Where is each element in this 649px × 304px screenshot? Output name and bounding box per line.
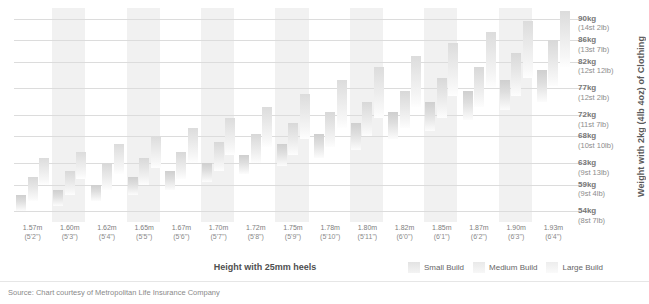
- y-tick-label: 68kg(10st 10lb): [578, 131, 613, 150]
- x-axis-ticks: 1.57m(5'2")1.60m(5'3")1.62m(5'4")1.65m(5…: [14, 224, 572, 248]
- x-tick-label: 1.70m(5'7"): [200, 224, 237, 241]
- y-tick-kg: 72kg: [578, 110, 609, 120]
- x-tick-metric: 1.82m: [386, 224, 423, 233]
- x-tick-metric: 1.87m: [460, 224, 497, 233]
- source-note: Source: Chart courtesy of Metropolitan L…: [8, 288, 220, 297]
- x-tick-imperial: (5'10"): [312, 233, 349, 242]
- range-bar: [28, 177, 38, 201]
- x-tick-imperial: (5'6"): [163, 233, 200, 242]
- y-tick-imperial: (14st 2lb): [578, 23, 609, 33]
- range-bar: [374, 67, 384, 118]
- y-tick-label: 54kg(8st 7lb): [578, 206, 605, 225]
- x-tick-label: 1.90m(6'3"): [498, 224, 535, 241]
- x-tick-metric: 1.90m: [498, 224, 535, 233]
- range-bar: [102, 163, 112, 190]
- range-bar: [225, 118, 235, 155]
- y-tick-label: 90kg(14st 2lb): [578, 14, 609, 33]
- x-tick-label: 1.75m(5'9"): [274, 224, 311, 241]
- range-bar: [165, 171, 175, 190]
- x-tick-label: 1.62m(5'4"): [88, 224, 125, 241]
- gridline: [14, 19, 586, 20]
- y-tick-label: 59kg(9st 4lb): [578, 180, 605, 199]
- x-tick-label: 1.85m(6'1"): [423, 224, 460, 241]
- range-bar: [139, 158, 149, 185]
- legend-item[interactable]: Large Build: [546, 262, 602, 273]
- weight-for-height-chart: 90kg(14st 2lb)86kg(13st 7lb)82kg(12st 12…: [0, 0, 649, 304]
- x-tick-metric: 1.80m: [349, 224, 386, 233]
- x-tick-label: 1.57m(5'2"): [14, 224, 51, 241]
- plot-area: [14, 8, 572, 222]
- range-bar: [425, 102, 435, 131]
- y-tick-label: 63kg(9st 13lb): [578, 158, 609, 177]
- x-tick-imperial: (5'5"): [126, 233, 163, 242]
- range-bar: [486, 32, 496, 88]
- x-tick-imperial: (5'9"): [274, 233, 311, 242]
- range-bar: [448, 43, 458, 97]
- range-bar: [202, 163, 212, 182]
- y-tick-kg: 90kg: [578, 14, 609, 24]
- range-bar: [91, 185, 101, 201]
- range-bar: [114, 144, 124, 173]
- range-bar: [548, 40, 558, 85]
- x-tick-metric: 1.85m: [423, 224, 460, 233]
- legend-item[interactable]: Small Build: [408, 262, 464, 273]
- range-bar: [251, 134, 261, 163]
- y-tick-imperial: (9st 13lb): [578, 168, 609, 178]
- range-bar: [463, 91, 473, 120]
- y-tick-imperial: (10st 10lb): [578, 141, 613, 151]
- x-tick-metric: 1.72m: [237, 224, 274, 233]
- x-tick-label: 1.67m(5'6"): [163, 224, 200, 241]
- range-bar: [277, 144, 287, 165]
- range-bar: [560, 11, 570, 67]
- x-tick-label: 1.60m(5'3"): [51, 224, 88, 241]
- y-axis-ticks: 90kg(14st 2lb)86kg(13st 7lb)82kg(12st 12…: [578, 0, 626, 232]
- y-tick-imperial: (11st 7lb): [578, 120, 609, 130]
- y-tick-imperial: (12st 2lb): [578, 93, 609, 103]
- gridline: [14, 211, 586, 212]
- x-tick-label: 1.87m(6'2"): [460, 224, 497, 241]
- x-tick-imperial: (5'2"): [14, 233, 51, 242]
- range-bar: [151, 136, 161, 168]
- legend-swatch: [546, 262, 558, 273]
- y-tick-label: 77kg(12st 2lb): [578, 83, 609, 102]
- range-bar: [351, 123, 361, 150]
- range-bar: [128, 177, 138, 196]
- range-bar: [314, 134, 324, 158]
- x-axis-title: Height with 25mm heels: [150, 262, 380, 272]
- x-tick-label: 1.78m(5'10"): [312, 224, 349, 241]
- x-tick-label: 1.72m(5'8"): [237, 224, 274, 241]
- legend-item[interactable]: Medium Build: [473, 262, 537, 273]
- x-tick-label: 1.82m(6'0"): [386, 224, 423, 241]
- x-tick-metric: 1.62m: [88, 224, 125, 233]
- y-tick-imperial: (13st 7lb): [578, 45, 609, 55]
- legend-swatch: [408, 262, 420, 273]
- x-tick-imperial: (6'1"): [423, 233, 460, 242]
- gridline: [14, 40, 586, 41]
- y-tick-label: 82kg(12st 12lb): [578, 57, 613, 76]
- y-tick-kg: 68kg: [578, 131, 613, 141]
- range-bar: [300, 94, 310, 139]
- y-axis-title: Weight with 2kg (4lb 4oz) of Clothing: [636, 0, 646, 232]
- x-tick-metric: 1.60m: [51, 224, 88, 233]
- legend-label: Large Build: [562, 263, 602, 272]
- y-tick-kg: 59kg: [578, 180, 605, 190]
- y-tick-kg: 54kg: [578, 206, 605, 216]
- range-bar: [239, 155, 249, 174]
- range-bar: [65, 171, 75, 195]
- x-tick-imperial: (5'4"): [88, 233, 125, 242]
- range-bar: [400, 91, 410, 128]
- range-bar: [39, 158, 49, 185]
- x-tick-label: 1.80m(5'11"): [349, 224, 386, 241]
- y-tick-imperial: (8st 7lb): [578, 216, 605, 226]
- range-bar: [437, 78, 447, 118]
- range-bar: [53, 190, 63, 206]
- range-bar: [76, 152, 86, 179]
- gridline: [14, 62, 586, 63]
- x-tick-imperial: (6'3"): [498, 233, 535, 242]
- range-bar: [325, 112, 335, 147]
- x-tick-imperial: (6'0"): [386, 233, 423, 242]
- range-bar: [537, 70, 547, 102]
- x-tick-imperial: (5'11"): [349, 233, 386, 242]
- range-bar: [214, 142, 224, 171]
- legend-label: Small Build: [424, 263, 464, 272]
